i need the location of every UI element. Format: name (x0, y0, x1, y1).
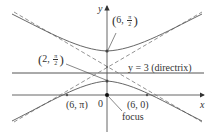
point-right-x-intercept (146, 94, 148, 96)
hyperbola-diagram: y x 0 (6, π2) (2, π2) y = 3 (directrix) … (0, 0, 211, 135)
lower-vertex-label: (2, π2) (38, 53, 64, 66)
focus-label: focus (122, 112, 144, 122)
left-point-label: (6, π) (66, 100, 88, 110)
pointer-upper-vertex (108, 33, 116, 50)
x-axis-label: x (200, 100, 204, 110)
upper-vertex-label: (6, π2) (112, 14, 138, 27)
directrix-label: y = 3 (directrix) (128, 63, 192, 73)
right-point-label: (6, 0) (127, 100, 149, 110)
pointer-focus (108, 96, 122, 111)
point-left-x-intercept (66, 94, 68, 96)
point-center-on-axis (106, 66, 108, 68)
origin-label: 0 (98, 99, 103, 109)
y-axis-label: y (98, 4, 102, 14)
